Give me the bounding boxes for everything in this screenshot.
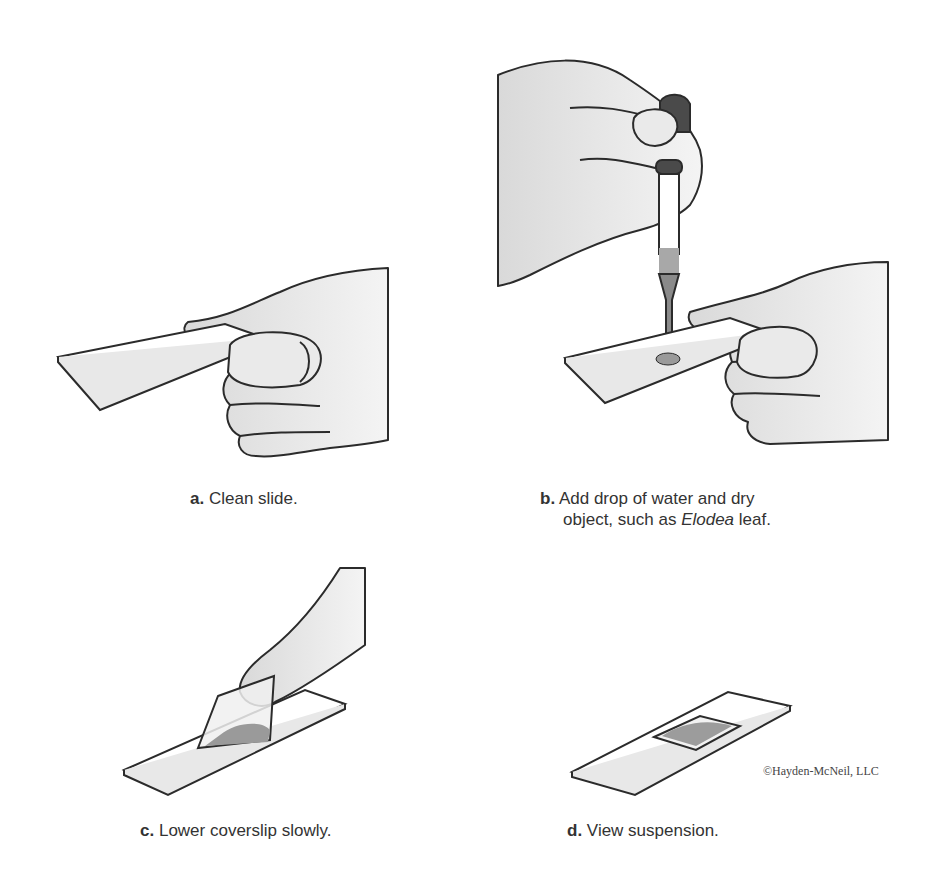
copyright-notice: ©Hayden-McNeil, LLC xyxy=(763,764,879,779)
caption-b: b. Add drop of water and dry object, suc… xyxy=(540,488,771,530)
caption-text: Lower coverslip slowly. xyxy=(159,821,332,840)
caption-text: Clean slide. xyxy=(209,489,298,508)
caption-d: d. View suspension. xyxy=(567,820,719,841)
caption-text-line1: Add drop of water and dry xyxy=(559,489,755,508)
illustrations xyxy=(0,0,925,882)
panel-d-illustration xyxy=(572,692,790,795)
caption-letter: c. xyxy=(140,821,154,840)
caption-text-italic: Elodea xyxy=(681,510,734,529)
caption-text-line2-pre: object, such as xyxy=(540,510,681,529)
thumb-icon xyxy=(737,327,817,378)
panel-b-illustration xyxy=(498,61,888,444)
caption-letter: d. xyxy=(567,821,582,840)
panel-c-illustration xyxy=(124,568,365,795)
caption-letter: b. xyxy=(540,489,555,508)
caption-a: a. Clean slide. xyxy=(190,488,298,509)
caption-letter: a. xyxy=(190,489,204,508)
thumb-icon xyxy=(633,109,677,146)
water-drop-icon xyxy=(656,353,680,365)
panel-a-illustration xyxy=(58,268,388,456)
coverslip-icon xyxy=(198,676,274,748)
caption-c: c. Lower coverslip slowly. xyxy=(140,820,332,841)
caption-text-line2-post: leaf. xyxy=(734,510,771,529)
caption-text: View suspension. xyxy=(587,821,719,840)
thumb-icon xyxy=(228,332,321,387)
